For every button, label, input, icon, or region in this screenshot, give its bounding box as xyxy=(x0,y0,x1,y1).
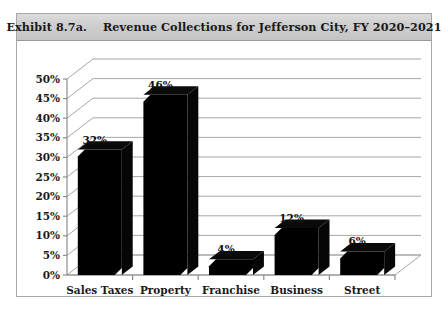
y-axis-tick-label: 35% xyxy=(35,131,60,143)
bar-side-face xyxy=(319,220,330,275)
gridline xyxy=(67,59,421,79)
chart-plot-area: 0%5%10%15%20%25%30%35%40%45%50%32%Sales … xyxy=(17,41,431,296)
y-axis-tick-label: 15% xyxy=(35,210,60,222)
y-axis-tick-label: 50% xyxy=(35,73,60,85)
bar-chart: 0%5%10%15%20%25%30%35%40%45%50%32%Sales … xyxy=(17,41,431,296)
bar-side-face xyxy=(122,141,133,275)
y-axis-tick-label: 10% xyxy=(35,229,60,241)
x-axis-category-label: Sales Taxes xyxy=(66,284,133,296)
bar-front-face xyxy=(143,95,187,275)
bar-group xyxy=(340,243,395,275)
bar-group xyxy=(143,86,198,275)
y-axis-tick-label: 25% xyxy=(35,171,60,183)
bar-front-face xyxy=(78,150,122,275)
y-axis-tick-label: 45% xyxy=(35,92,60,104)
bar-value-label: 12% xyxy=(279,212,304,224)
bar-value-label: 32% xyxy=(83,134,108,146)
bar-front-face xyxy=(340,251,384,275)
bar-front-face xyxy=(209,259,253,275)
bar-value-label: 46% xyxy=(148,79,173,91)
gridline xyxy=(67,79,421,99)
y-axis-tick-label: 5% xyxy=(43,249,60,261)
bar-group xyxy=(275,220,330,275)
exhibit-title-bar: Exhibit 8.7a. Revenue Collections for Je… xyxy=(17,14,431,41)
y-axis-tick-label: 0% xyxy=(43,269,60,281)
bar-group xyxy=(78,141,133,275)
bar-side-face xyxy=(187,86,198,275)
x-axis-category-label: Franchise xyxy=(202,284,260,296)
x-axis-category-label: Street xyxy=(344,284,380,296)
bar-value-label: 6% xyxy=(349,235,366,247)
x-axis-category-label: Property xyxy=(140,284,192,296)
gridline xyxy=(67,98,421,118)
y-axis-tick-label: 30% xyxy=(35,151,60,163)
bar-front-face xyxy=(275,228,319,275)
bar-value-label: 4% xyxy=(217,243,234,255)
figure-container: Exhibit 8.7a. Revenue Collections for Je… xyxy=(16,13,432,297)
x-axis-category-label: Business xyxy=(270,284,323,296)
gridline xyxy=(67,118,421,138)
y-axis-tick-label: 20% xyxy=(35,190,60,202)
page-title: Exhibit 8.7a. Revenue Collections for Je… xyxy=(6,20,441,34)
y-axis-tick-label: 40% xyxy=(35,112,60,124)
